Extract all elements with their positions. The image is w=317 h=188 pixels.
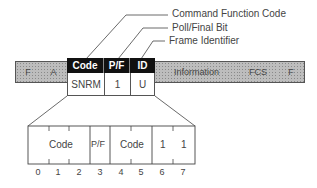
- expanded-field-code-1: Code: [49, 139, 73, 150]
- frame-field-fcs: FCS: [238, 61, 279, 83]
- bit-label-2: 2: [74, 167, 84, 177]
- control-header-id: ID: [130, 58, 155, 73]
- callout-command-function-code: Command Function Code: [172, 8, 286, 19]
- expanded-field-pf: P/F: [91, 139, 105, 149]
- control-value-pf: 1: [104, 73, 131, 96]
- frame-field-flag-start: F: [15, 61, 41, 83]
- bit-label-3: 3: [95, 167, 105, 177]
- control-value-id: U: [130, 73, 155, 96]
- control-header-pf: P/F: [104, 58, 130, 73]
- control-header-code: Code: [67, 58, 104, 73]
- control-value-code: SNRM: [67, 73, 105, 96]
- bit-label-1: 1: [53, 167, 63, 177]
- expanded-field-bit-6: 1: [160, 139, 166, 150]
- frame-field-information: Information: [154, 61, 239, 83]
- bit-label-7: 7: [178, 167, 188, 177]
- bit-label-0: 0: [33, 167, 43, 177]
- expanded-field-bit-7: 1: [181, 139, 187, 150]
- frame-field-flag-end: F: [278, 61, 305, 83]
- callout-frame-identifier: Frame Identifier: [169, 35, 239, 46]
- bit-label-4: 4: [116, 167, 126, 177]
- diagram-lines: [0, 0, 317, 188]
- expanded-field-code-2: Code: [120, 139, 144, 150]
- frame-field-address: A: [40, 61, 68, 83]
- bit-label-6: 6: [157, 167, 167, 177]
- callout-poll-final-bit: Poll/Final Bit: [172, 22, 228, 33]
- bit-label-5: 5: [136, 167, 146, 177]
